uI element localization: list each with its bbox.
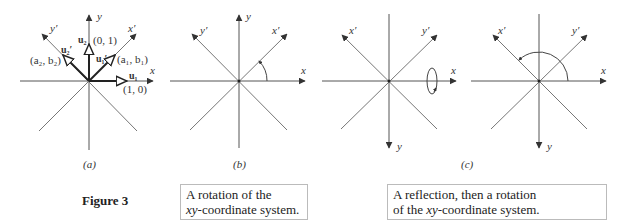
caption-b: A rotation of the xy-coordinate system. xyxy=(180,184,308,220)
axis-label-yprime: y′ xyxy=(49,22,58,34)
caption-c-pre: of the xyxy=(393,202,426,217)
axis-label-x: x xyxy=(450,64,456,76)
vector-u2-label: u₂ xyxy=(78,34,87,45)
panel-b-labels: y x x′ y′ (b) xyxy=(199,10,306,171)
axis-label-yprime: y′ xyxy=(571,24,580,36)
axis-label-yprime: y′ xyxy=(421,24,430,36)
panel-c-reflection xyxy=(322,14,456,148)
caption-b-rest: -coordinate system. xyxy=(198,202,300,217)
caption-c-rest: -coordinate system. xyxy=(438,202,540,217)
vector-u2prime-coord: (a₂, b₂) xyxy=(30,54,61,67)
vector-u1prime-coord: (a₁, b₁) xyxy=(117,53,148,66)
caption-b-line1: A rotation of the xyxy=(186,187,302,202)
axis-label-xprime: x′ xyxy=(497,24,506,36)
vector-u2-coord: (0, 1) xyxy=(93,34,117,47)
vector-u1-label: u₁ xyxy=(129,70,138,81)
panel-label-c: (c) xyxy=(461,158,474,171)
axis-label-yprime: y′ xyxy=(199,24,208,36)
caption-c: A reflection, then a rotation of the xy-… xyxy=(387,184,607,220)
vector-u1prime-label: u₁′ xyxy=(96,53,108,64)
panel-label-a: (a) xyxy=(83,158,96,171)
axis-label-y: y xyxy=(245,10,251,22)
axis-label-x: x xyxy=(149,64,155,76)
axis-label-x: x xyxy=(600,64,606,76)
axis-label-y: y xyxy=(96,10,102,22)
vector-u2prime-label: u₂′ xyxy=(61,44,73,55)
axis-label-xprime: x′ xyxy=(127,22,136,34)
axis-label-y: y xyxy=(546,140,552,152)
caption-b-line2: xy-coordinate system. xyxy=(186,202,302,217)
caption-c-line1: A reflection, then a rotation xyxy=(393,187,601,202)
caption-c-xy: xy xyxy=(426,202,438,217)
vector-u1-coord: (1, 0) xyxy=(123,83,147,96)
axis-label-xprime: x′ xyxy=(348,24,357,36)
panel-c-rotation xyxy=(471,14,606,148)
figure-title: Figure 3 xyxy=(82,193,128,209)
panel-b xyxy=(170,15,305,148)
panel-label-b: (b) xyxy=(233,158,246,171)
axis-label-xprime: x′ xyxy=(271,24,280,36)
panel-c-rotation-labels: y x x′ y′ (c) xyxy=(461,24,606,171)
panel-a-labels: y x x′ y′ u₁ (1, 0) u₂ (0, 1) u₁′ (a₁, b… xyxy=(30,10,155,171)
panel-c-reflection-labels: y x x′ y′ xyxy=(348,24,456,152)
caption-c-line2: of the xy-coordinate system. xyxy=(393,202,601,217)
caption-b-xy: xy xyxy=(186,202,198,217)
axis-label-x: x xyxy=(300,64,306,76)
axis-label-y: y xyxy=(396,140,402,152)
